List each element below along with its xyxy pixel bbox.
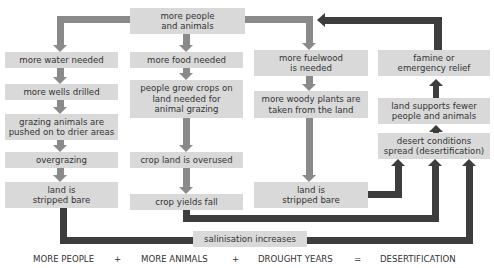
arrow-shaft [306, 118, 313, 175]
arrow-down-icon [53, 45, 67, 52]
arrow-down-icon [179, 73, 193, 80]
connector-top-right-down [306, 16, 313, 43]
arrow-shaft [57, 68, 64, 77]
arrow-shaft [183, 168, 190, 187]
arrow-down-icon [53, 145, 67, 152]
box-more-water-needed: more water needed [5, 52, 118, 68]
feedback-arrow-water-v2 [466, 166, 473, 244]
box-crop-land-overused: crop land is overused [130, 152, 243, 168]
box-crop-yields-fall: crop yields fall [130, 194, 243, 210]
connector-top-left-down [57, 16, 64, 45]
arrow-shaft [306, 76, 313, 84]
formula-plus-2: + [232, 254, 239, 264]
box-land-supports-fewer: land supports fewer people and animals [378, 98, 490, 124]
box-salinisation-increases: salinisation increases [193, 231, 307, 247]
arrow-down-icon [179, 187, 193, 194]
box-famine-emergency-relief: famine or emergency relief [378, 50, 490, 76]
box-more-food-needed: more food needed [130, 52, 243, 68]
arrow-down-icon [53, 107, 67, 114]
box-people-grow-crops: people grow crops on land needed for ani… [130, 80, 243, 118]
arrow-shaft [183, 118, 190, 145]
feedback-arrow-crop-v2 [432, 166, 439, 222]
box-desert-conditions-spread: desert conditions spread (desertificatio… [378, 133, 490, 159]
feedback-arrow-fuel-v [395, 166, 402, 198]
arrow-up-icon [429, 79, 443, 86]
formula-term-people: MORE PEOPLE [33, 254, 94, 264]
arrow-shaft [57, 100, 64, 107]
box-more-fuelwood-needed: more fuelwood is needed [254, 50, 368, 76]
arrow-down-icon [53, 77, 67, 84]
formula-equals: = [354, 254, 361, 264]
feedback-arrow-water-h-right [307, 237, 473, 244]
arrow-down-icon [302, 43, 316, 50]
box-more-wells-drilled: more wells drilled [5, 84, 118, 100]
formula-result: DESERTIFICATION [380, 254, 456, 264]
formula-term-animals: MORE ANIMALS [141, 254, 208, 264]
box-more-people-and-animals: more people and animals [130, 8, 245, 34]
arrow-shaft-dark [433, 86, 439, 98]
connector-top-left [57, 16, 130, 23]
feedback-arrow-crop-h [183, 215, 439, 222]
box-woody-plants-taken: more woody plants are taken from the lan… [254, 91, 368, 118]
connector-top-right [245, 16, 312, 23]
arrow-up-icon [391, 159, 405, 166]
desertification-formula: MORE PEOPLE + MORE ANIMALS + DROUGHT YEA… [0, 254, 494, 266]
arrow-down-icon [302, 175, 316, 182]
formula-plus-1: + [114, 254, 121, 264]
arrow-shaft [57, 168, 64, 175]
arrow-up-icon [462, 159, 476, 166]
arrow-down-icon [179, 45, 193, 52]
formula-term-drought: DROUGHT YEARS [258, 254, 333, 264]
connector-top-mid-down [183, 34, 190, 45]
box-land-stripped-bare-2: land is stripped bare [254, 182, 368, 208]
box-overgrazing: overgrazing [5, 152, 118, 168]
arrow-up-icon [429, 125, 443, 132]
arrow-down-icon [179, 145, 193, 152]
box-land-stripped-bare-1: land is stripped bare [5, 182, 118, 208]
feedback-arrow-water-h-left [60, 237, 193, 244]
arrow-left-icon [317, 13, 325, 27]
arrow-down-icon [302, 84, 316, 91]
box-grazing-animals-pushed: grazing animals are pushed on to drier a… [5, 114, 118, 140]
return-arrow-horizontal [325, 17, 442, 24]
arrow-up-icon [428, 159, 442, 166]
arrow-down-icon [53, 175, 67, 182]
